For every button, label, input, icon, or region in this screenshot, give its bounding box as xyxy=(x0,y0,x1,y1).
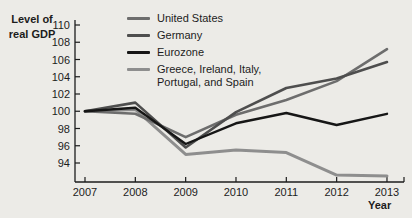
series-line-greece-ireland-italy-portugal-and-spain xyxy=(85,110,387,176)
y-axis-title-line1: Level of xyxy=(2,12,62,27)
legend-item: Greece, Ireland, Italy,Portugal, and Spa… xyxy=(127,63,261,89)
legend-item: United States xyxy=(127,12,261,25)
x-tick-label: 2009 xyxy=(173,186,197,198)
y-tick-label: 104 xyxy=(52,71,70,83)
x-tick-label: 2012 xyxy=(324,186,348,198)
x-tick-label: 2013 xyxy=(375,186,399,198)
y-tick-label: 98 xyxy=(58,123,70,135)
legend-line-swatch xyxy=(127,68,150,71)
legend-label: United States xyxy=(157,12,223,25)
x-tick-label: 2007 xyxy=(73,186,97,198)
y-axis-title-line2: real GDP xyxy=(2,27,62,42)
legend-label: Greece, Ireland, Italy,Portugal, and Spa… xyxy=(157,63,261,89)
legend-item: Germany xyxy=(127,29,261,42)
legend-line-swatch xyxy=(127,34,150,37)
y-tick-label: 100 xyxy=(52,105,70,117)
legend-label: Germany xyxy=(157,29,202,42)
y-tick-label: 96 xyxy=(58,140,70,152)
x-tick-label: 2010 xyxy=(224,186,248,198)
legend: United StatesGermanyEurozoneGreece, Irel… xyxy=(127,12,261,93)
y-tick-label: 106 xyxy=(52,54,70,66)
x-axis-title: Year xyxy=(368,199,391,211)
x-tick-label: 2008 xyxy=(123,186,147,198)
legend-item: Eurozone xyxy=(127,46,261,59)
x-tick-label: 2011 xyxy=(274,186,298,198)
legend-line-swatch xyxy=(127,17,150,20)
gdp-line-chart-figure: 9496981001021041061081102007200820092010… xyxy=(0,0,412,218)
y-axis-title: Level of real GDP xyxy=(2,12,62,42)
y-tick-label: 102 xyxy=(52,88,70,100)
legend-label: Eurozone xyxy=(157,46,204,59)
legend-line-swatch xyxy=(127,51,150,54)
y-tick-label: 94 xyxy=(58,157,70,169)
